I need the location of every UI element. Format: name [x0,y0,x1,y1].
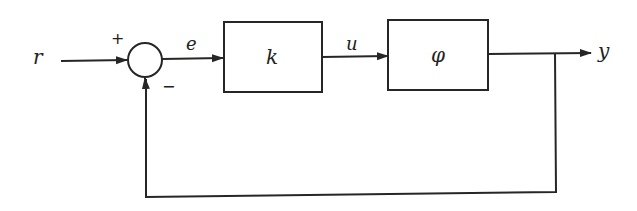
controller-label-k: k [266,45,278,69]
input-arrow [61,60,127,61]
output-label-y: y [597,39,610,63]
block-diagram: r + − e k u φ y [0,0,637,211]
control-arrow [322,56,388,57]
input-label-r: r [33,45,44,69]
control-label-u: u [346,33,358,54]
error-arrow [162,58,223,59]
feedback-path [146,54,556,197]
feedback-arrow [145,78,146,90]
error-label-e: e [186,33,197,54]
minus-sign: − [162,77,175,96]
plus-sign: + [111,29,124,48]
plant-label-phi: φ [431,43,445,67]
summing-junction [128,43,162,77]
output-arrow [488,53,591,54]
